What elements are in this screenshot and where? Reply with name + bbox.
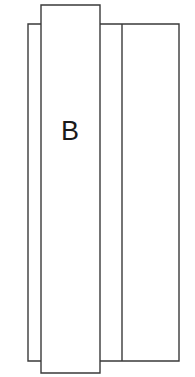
- line-drawing-svg: B: [0, 0, 195, 377]
- label-b: B: [61, 116, 79, 146]
- narrow-rectangle: [41, 5, 100, 373]
- figure-canvas: B: [0, 0, 195, 377]
